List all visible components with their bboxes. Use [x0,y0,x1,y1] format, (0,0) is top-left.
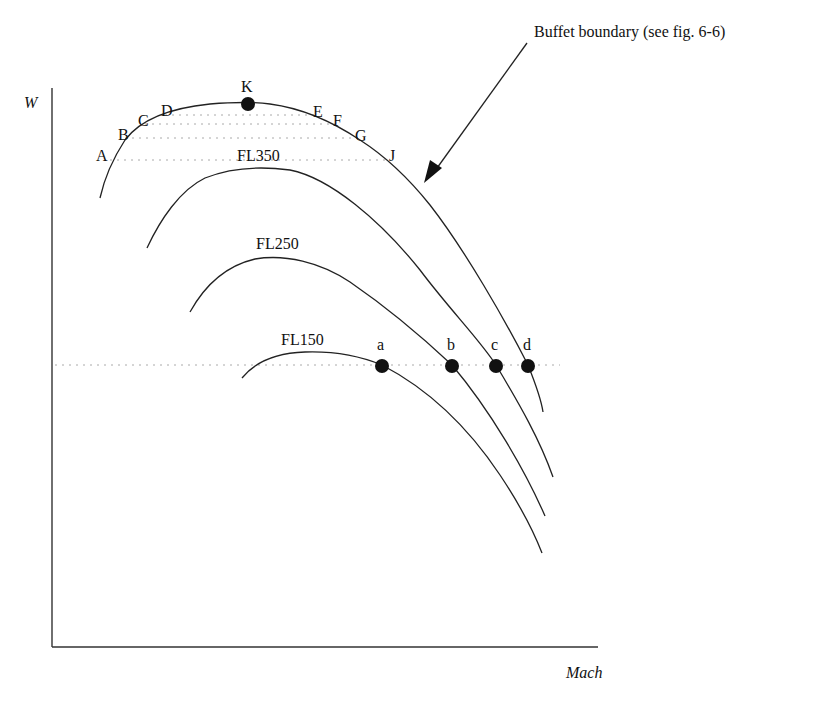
point-b-marker [445,359,459,373]
point-label-D: D [161,102,173,119]
point-label-A: A [96,147,108,164]
x-axis-label: Mach [565,664,602,681]
diagram-canvas: W Mach Buffet boundary (see fig. 6-6) A … [0,0,830,703]
point-label-d: d [523,336,531,353]
point-label-J: J [389,147,395,164]
fl350-curve [147,168,553,477]
point-label-C: C [138,112,149,129]
point-d-marker [521,359,535,373]
y-axis-label: W [24,94,39,111]
point-label-K: K [241,78,253,95]
point-K-marker [241,97,255,111]
point-a-marker [375,359,389,373]
fl350-label: FL350 [237,147,280,164]
point-c-marker [489,359,503,373]
point-label-E: E [313,103,323,120]
fl150-label: FL150 [281,331,324,348]
arrow-head-icon [424,160,442,183]
point-label-G: G [355,127,367,144]
point-label-F: F [333,112,342,129]
buffet-boundary-curve [100,103,543,413]
buffet-boundary-annotation: Buffet boundary (see fig. 6-6) [534,23,725,41]
annotation-arrow-line [432,43,527,175]
fl150-curve [242,352,542,553]
point-label-b: b [447,336,455,353]
fl250-label: FL250 [256,235,299,252]
point-label-c: c [491,336,498,353]
point-label-a: a [377,336,384,353]
point-label-B: B [118,126,129,143]
fl250-curve [190,258,545,516]
